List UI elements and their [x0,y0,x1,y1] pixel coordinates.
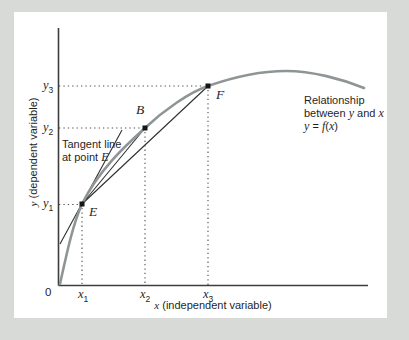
equation-equals: = [309,120,322,132]
point-f-marker [206,84,211,89]
dotted-guides [59,86,208,285]
relationship-line2-mid: and [354,107,378,119]
x-axis-text: (independent variable) [159,299,272,311]
point-e-marker [80,202,85,207]
y2-sub: 2 [49,127,54,137]
y2-tick-label: y2 [43,121,53,139]
y3-tick-label: y3 [43,79,53,97]
relationship-line2: between y and x [304,107,384,120]
y1-tick-label: y1 [43,197,53,215]
point-e-label: E [89,205,97,218]
equation-paren-close: ) [334,120,338,132]
origin-label: 0 [45,286,51,299]
tangent-annotation: Tangent line at point E [62,138,121,164]
tangent-annotation-var-e: E [101,150,108,164]
y-axis-text: (dependent variable) [27,98,39,202]
y3-sub: 3 [49,85,54,95]
y-axis-title: y (dependent variable) [27,98,40,207]
tangent-annotation-text: at point [62,151,101,163]
point-f-label: F [216,88,224,101]
x-axis-title: x (independent variable) [58,299,368,312]
tangent-annotation-line1: Tangent line [62,138,121,151]
y-axis-var: y [27,202,39,207]
relationship-line1: Relationship [304,94,384,107]
figure-canvas: 0 y3 y2 y1 x1 x2 x3 y (dependent variabl… [0,0,409,340]
relationship-var-x: x [378,106,383,120]
point-b-marker [143,126,148,131]
relationship-line2-pre: between [304,107,349,119]
relationship-line3: y = f(x) [304,120,384,133]
y1-sub: 1 [49,203,54,213]
relationship-annotation: Relationship between y and x y = f(x) [304,94,384,133]
point-b-label: B [136,103,144,116]
tangent-annotation-line2: at point E [62,151,121,164]
